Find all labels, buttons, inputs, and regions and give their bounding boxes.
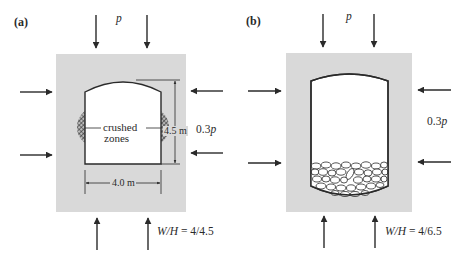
ratio-prefix-a: W/H — [157, 225, 178, 237]
ratio-value-a: = 4/4.5 — [181, 225, 214, 237]
crushed-zones-label-line2: zones — [104, 133, 129, 144]
lateral-load-value-a: 0.3p — [196, 123, 216, 135]
ratio-label-a: W/H = 4/4.5 — [157, 226, 214, 238]
ratio-value-b: = 4/6.5 — [409, 225, 442, 237]
ratio-label-b: W/H = 4/6.5 — [385, 226, 442, 238]
top-load-label-a: p — [116, 13, 122, 25]
lateral-load-label-a: 0.3p — [196, 124, 216, 136]
diagram-stage: (a) p 0.3p crushed zones 4.5 m 4.0 m W/H… — [0, 0, 467, 264]
panel-a-label: (a) — [14, 16, 28, 28]
lateral-load-label-b: 0.3p — [427, 116, 447, 128]
height-dimension-label: 4.5 m — [163, 126, 188, 136]
panel-b-label: (b) — [246, 15, 261, 27]
panel-b — [248, 14, 451, 248]
top-load-label-b: p — [346, 11, 352, 23]
ratio-prefix-b: W/H — [385, 225, 406, 237]
width-dimension-label: 4.0 m — [111, 178, 136, 188]
